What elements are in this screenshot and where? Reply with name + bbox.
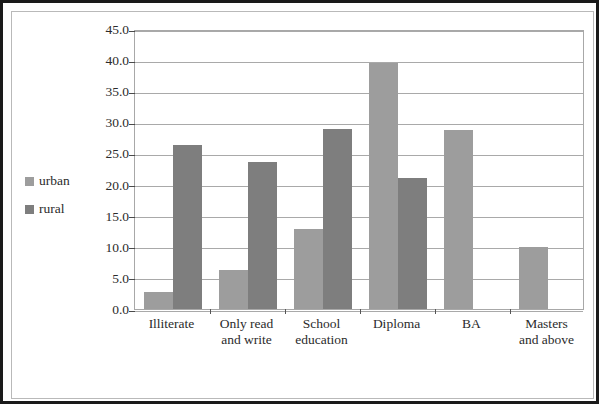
y-axis-tick-label: 35.0 <box>91 84 129 100</box>
chart-legend: urban rural <box>25 173 115 229</box>
bar-series-container <box>135 31 583 309</box>
x-axis-label-line: and write <box>209 332 284 348</box>
legend-label-rural: rural <box>39 201 64 217</box>
gridline <box>135 311 583 312</box>
y-axis-tick <box>129 311 135 312</box>
x-axis-label-line: School <box>284 316 359 332</box>
x-axis-label-line: BA <box>434 316 509 332</box>
x-axis-category-label: BA <box>434 316 509 332</box>
y-axis-tick-label: 10.0 <box>91 240 129 256</box>
bar-group <box>435 31 510 309</box>
legend-swatch-urban <box>25 177 34 186</box>
bar-rural <box>323 129 352 309</box>
x-axis-tick <box>285 309 286 314</box>
x-axis-label-line: Masters <box>509 316 584 332</box>
bar-group <box>360 31 435 309</box>
bar-group <box>135 31 210 309</box>
bar-urban <box>369 63 398 309</box>
y-axis-tick-label: 45.0 <box>91 22 129 38</box>
y-axis-tick-label: 25.0 <box>91 146 129 162</box>
bar-urban <box>294 229 323 309</box>
grouped-bar-chart: 0.05.010.015.020.025.030.035.040.045.0 I… <box>3 3 599 404</box>
y-axis-tick-labels: 0.05.010.015.020.025.030.035.040.045.0 <box>91 30 129 310</box>
legend-item-rural: rural <box>25 201 115 217</box>
x-axis-category-label: Diploma <box>359 316 434 332</box>
bar-group <box>210 31 285 309</box>
legend-swatch-rural <box>25 205 34 214</box>
image-frame: 0.05.010.015.020.025.030.035.040.045.0 I… <box>0 0 599 404</box>
x-axis-tick <box>510 309 511 314</box>
x-axis-label-line: and above <box>509 332 584 348</box>
bar-urban <box>519 247 548 309</box>
bar-urban <box>444 130 473 309</box>
bar-rural <box>398 178 427 309</box>
x-axis-label-line: Only read <box>209 316 284 332</box>
x-axis-category-label: Schooleducation <box>284 316 359 348</box>
plot-area <box>134 30 584 310</box>
x-axis-category-label: Only readand write <box>209 316 284 348</box>
y-axis-tick-label: 40.0 <box>91 53 129 69</box>
x-axis-category-label: Illiterate <box>134 316 209 332</box>
x-axis-tick-labels: IlliterateOnly readand writeSchooleducat… <box>134 316 584 362</box>
x-axis-label-line: education <box>284 332 359 348</box>
x-axis-label-line: Diploma <box>359 316 434 332</box>
y-axis-tick-label: 5.0 <box>91 271 129 287</box>
x-axis-tick <box>210 309 211 314</box>
x-axis-tick <box>360 309 361 314</box>
bar-urban <box>219 270 248 309</box>
x-axis-category-label: Mastersand above <box>509 316 584 348</box>
bar-urban <box>144 292 173 309</box>
y-axis-tick-label: 0.0 <box>91 302 129 318</box>
y-axis-tick-label: 30.0 <box>91 115 129 131</box>
legend-item-urban: urban <box>25 173 115 189</box>
legend-label-urban: urban <box>39 173 70 189</box>
bar-group <box>285 31 360 309</box>
bar-group <box>510 31 585 309</box>
x-axis-label-line: Illiterate <box>134 316 209 332</box>
x-axis-tick <box>435 309 436 314</box>
bar-rural <box>173 145 202 309</box>
bar-rural <box>248 162 277 309</box>
